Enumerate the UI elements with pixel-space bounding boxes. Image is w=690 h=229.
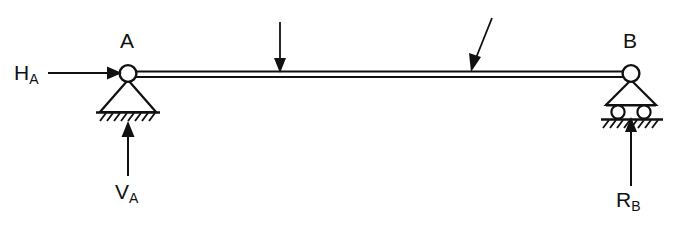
node-label-A: A [120,30,134,51]
beam-free-body-diagram [0,0,690,229]
ground-hatch-A [100,113,155,121]
roller-triangle-B [606,80,656,105]
pin-triangle-A [100,80,156,112]
reaction-label-RB-subscript: B [631,198,640,214]
reaction-label-RB-symbol: R [616,188,631,211]
reaction-label-VA-symbol: V [115,180,129,203]
diagram-canvas: A B HA VA RB [0,0,690,229]
roller-wheel-right [637,105,650,118]
node-circle-A [120,65,137,82]
beam-member [128,72,631,78]
reaction-arrow-RB [625,117,637,186]
reaction-label-VA: VA [115,181,138,202]
node-label-B: B [623,30,637,51]
roller-wheel-left [611,105,624,118]
node-circle-B [623,65,640,82]
reaction-arrow-HA [48,67,122,80]
reaction-arrow-VA [122,121,135,176]
reaction-label-HA-symbol: H [14,61,29,84]
point-load-arrow-2 [469,18,492,72]
reaction-label-RB: RB [616,189,641,210]
reaction-label-VA-subscript: A [129,190,138,206]
point-load-arrow-1 [274,22,286,73]
reaction-label-HA-subscript: A [29,71,38,87]
reaction-label-HA: HA [14,62,39,83]
